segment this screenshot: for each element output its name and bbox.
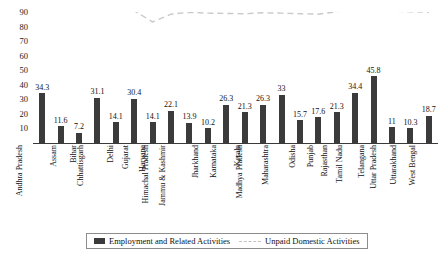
- x-axis-tick-label: Karnataka: [210, 145, 218, 178]
- chart-container: 102030405060708090 34.311.67.231.114.130…: [0, 0, 446, 262]
- bar[interactable]: [94, 98, 100, 143]
- bar[interactable]: [407, 128, 413, 143]
- bar[interactable]: [260, 105, 266, 143]
- bar-value-label: 30.4: [127, 89, 141, 97]
- x-axis-tick-label: Jharkhand: [191, 145, 199, 178]
- x-axis-tick-label: Maharashtra: [262, 145, 270, 185]
- bar-value-label: 22.1: [164, 101, 178, 109]
- bar[interactable]: [371, 76, 377, 143]
- bar[interactable]: [58, 126, 64, 143]
- bar-value-label: 10.3: [403, 119, 417, 127]
- legend-item-unpaid-domestic: Unpaid Domestic Activities: [239, 236, 359, 246]
- bar[interactable]: [315, 117, 321, 143]
- y-axis-tick-70: 70: [20, 37, 29, 46]
- bar[interactable]: [223, 105, 229, 143]
- bar[interactable]: [168, 111, 174, 143]
- x-axis-tick-label: Rajasthan: [321, 145, 329, 177]
- bar-slot: 7.2: [70, 12, 88, 143]
- bar[interactable]: [242, 112, 248, 143]
- bar-value-label: 14.1: [109, 113, 123, 121]
- bar-value-label: 31.1: [90, 88, 104, 96]
- bar-slot: 14.1: [143, 12, 161, 143]
- y-axis-tick-60: 60: [20, 51, 29, 60]
- bar-slot: 26.3: [217, 12, 235, 143]
- bar[interactable]: [279, 95, 285, 143]
- x-axis-label-slot: West Bengal: [420, 145, 438, 223]
- x-axis-label-slot: Chhattisgarh: [88, 145, 106, 223]
- bar-slot: 10.3: [401, 12, 419, 143]
- x-axis-tick-label: Uttarakhand: [391, 145, 399, 185]
- bar-slot: 34.4: [346, 12, 364, 143]
- x-axis-tick-label: Assam: [50, 145, 58, 167]
- y-axis: 102030405060708090: [0, 12, 30, 143]
- bar[interactable]: [205, 128, 211, 143]
- bar-value-label: 34.3: [35, 84, 49, 92]
- bar[interactable]: [334, 112, 340, 143]
- x-axis-tick-label: Delhi: [107, 145, 115, 163]
- bar[interactable]: [113, 122, 119, 143]
- x-axis-tick-label: West Bengal: [409, 145, 417, 185]
- bar-value-label: 18.7: [422, 106, 436, 114]
- dashed-line-swatch-icon: [239, 241, 261, 242]
- bar-slot: 10.2: [199, 12, 217, 143]
- bar-value-label: 45.8: [367, 67, 381, 75]
- y-axis-tick-20: 20: [20, 110, 29, 119]
- x-axis-baseline: [33, 143, 438, 144]
- bar-slot: 33: [272, 12, 290, 143]
- bar[interactable]: [39, 93, 45, 143]
- bar-slot: 11: [383, 12, 401, 143]
- bar-slot: 11.6: [51, 12, 69, 143]
- x-axis-tick-label: Punjab: [307, 145, 315, 167]
- chart-legend: Employment and Related Activities Unpaid…: [86, 233, 368, 249]
- y-axis-tick-30: 30: [20, 95, 29, 104]
- bar-value-label: 14.1: [146, 113, 160, 121]
- bar-slot: 26.3: [254, 12, 272, 143]
- bar-slot: 21.3: [328, 12, 346, 143]
- bar-value-label: 11.6: [54, 117, 68, 125]
- x-axis-tick-label: Gujarat: [122, 145, 130, 169]
- x-axis-tick-label: Andhra Pradesh: [17, 145, 25, 196]
- bar-slot: 18.7: [420, 12, 438, 143]
- bar-slot: 34.3: [33, 12, 51, 143]
- bar-series-employment-and-related-activities: 34.311.67.231.114.130.414.122.113.910.22…: [33, 12, 438, 143]
- legend-label-employment: Employment and Related Activities: [109, 236, 230, 246]
- bar-value-label: 7.2: [74, 123, 84, 131]
- bar-slot: 17.6: [309, 12, 327, 143]
- bar-slot: 15.7: [291, 12, 309, 143]
- y-axis-tick-80: 80: [20, 22, 29, 31]
- x-axis-tick-label: Telangana: [357, 145, 365, 178]
- bar-value-label: 26.3: [256, 95, 270, 103]
- bar-value-label: 26.3: [219, 95, 233, 103]
- x-axis-label-slot: Assam: [51, 145, 69, 223]
- bar[interactable]: [389, 127, 395, 143]
- bar-slot: 45.8: [364, 12, 382, 143]
- bar-slot: 30.4: [125, 12, 143, 143]
- x-axis-tick-label: Chhattisgarh: [77, 145, 85, 186]
- bar[interactable]: [76, 133, 82, 143]
- bar-value-label: 17.6: [311, 108, 325, 116]
- x-axis-tick-label: Madhya Pradesh: [236, 145, 244, 199]
- bar-value-label: 11: [388, 118, 396, 126]
- bar-value-label: 13.9: [182, 113, 196, 121]
- bar-slot: 22.1: [162, 12, 180, 143]
- bar-slot: 21.3: [236, 12, 254, 143]
- x-axis-tick-label: Uttar Pradesh: [370, 145, 378, 189]
- bar[interactable]: [426, 116, 432, 143]
- bar[interactable]: [150, 122, 156, 143]
- x-axis-tick-label: Jammu & Kashmir: [159, 145, 167, 206]
- bar-value-label: 34.4: [348, 83, 362, 91]
- bar[interactable]: [297, 120, 303, 143]
- bar-swatch-icon: [94, 238, 105, 244]
- bar-value-label: 33: [278, 85, 286, 93]
- bar[interactable]: [352, 93, 358, 143]
- bar-value-label: 10.2: [201, 119, 215, 127]
- y-axis-tick-50: 50: [20, 66, 29, 75]
- bar[interactable]: [186, 123, 192, 143]
- y-axis-tick-90: 90: [20, 8, 29, 17]
- bar-value-label: 21.3: [238, 103, 252, 111]
- x-axis-labels: Andhra PradeshAssamBiharChhattisgarhDelh…: [33, 145, 438, 223]
- legend-item-employment: Employment and Related Activities: [94, 236, 230, 246]
- bar[interactable]: [131, 99, 137, 143]
- y-axis-tick-10: 10: [20, 124, 29, 133]
- bar-slot: 14.1: [107, 12, 125, 143]
